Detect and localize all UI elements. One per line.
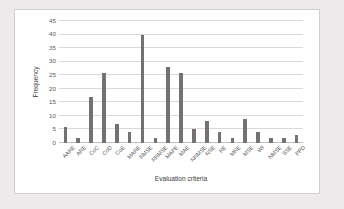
bar: [243, 119, 247, 143]
chart-container: Frequency 051015202530354045 AAREARECoCC…: [14, 9, 320, 194]
bar: [64, 127, 68, 143]
bar-slot: [136, 21, 149, 143]
bar-slot: [252, 21, 265, 143]
bar: [115, 124, 119, 143]
bar-slot: [187, 21, 200, 143]
bar-slot: [162, 21, 175, 143]
y-axis-tick-label: 25: [49, 72, 56, 78]
y-axis-tick-label: 20: [49, 86, 56, 92]
bar: [205, 121, 209, 143]
bar-slot: [72, 21, 85, 143]
x-axis-title: Evaluation criteria: [59, 176, 303, 183]
y-axis-tick-label: 30: [49, 59, 56, 65]
y-axis-title: Frequency: [33, 66, 40, 97]
bar-slot: [110, 21, 123, 143]
y-axis-tick-label: 45: [49, 18, 56, 24]
bar: [76, 138, 80, 143]
bar: [166, 67, 170, 143]
bar-slot: [213, 21, 226, 143]
bar: [179, 73, 183, 143]
bar-slot: [226, 21, 239, 143]
bar-slot: [290, 21, 303, 143]
bar: [269, 138, 273, 143]
y-axis-tick-label: 15: [49, 99, 56, 105]
bar: [102, 73, 106, 143]
bar-series: [59, 21, 303, 143]
bar: [282, 138, 286, 143]
bar-slot: [265, 21, 278, 143]
y-axis-tick-label: 5: [53, 126, 56, 132]
bar-slot: [149, 21, 162, 143]
bar: [128, 132, 132, 143]
y-axis-tick-label: 35: [49, 45, 56, 51]
bar-slot: [277, 21, 290, 143]
bar-slot: [98, 21, 111, 143]
bar-slot: [175, 21, 188, 143]
bar: [256, 132, 260, 143]
bar-slot: [239, 21, 252, 143]
bar: [89, 97, 93, 143]
bar-slot: [123, 21, 136, 143]
x-axis-tick-label: PPD: [294, 145, 306, 157]
bar: [295, 135, 299, 143]
y-axis-tick-label: 40: [49, 31, 56, 37]
bar: [231, 138, 235, 143]
bar-slot: [200, 21, 213, 143]
y-axis-tick-label: 0: [53, 140, 56, 146]
chart-page: Frequency 051015202530354045 AAREARECoCC…: [0, 0, 344, 209]
bar: [192, 129, 196, 143]
bar: [141, 35, 145, 143]
bar-slot: [59, 21, 72, 143]
bar-slot: [85, 21, 98, 143]
bar: [154, 138, 158, 143]
bar: [218, 132, 222, 143]
y-axis-tick-label: 10: [49, 113, 56, 119]
plot-area: 051015202530354045: [59, 21, 303, 143]
